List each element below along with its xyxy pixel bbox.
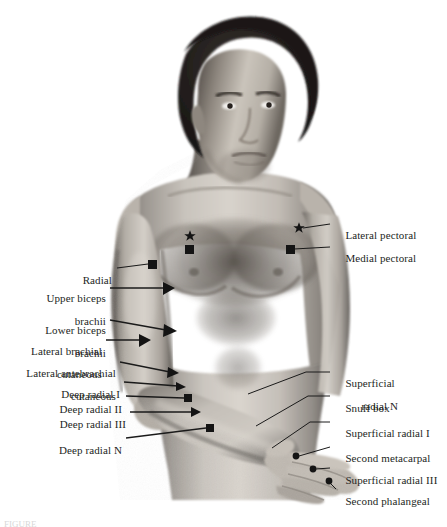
label-deep-radial-n-line1: Deep radial N bbox=[59, 444, 122, 456]
figure-caption: FIGURE bbox=[4, 519, 304, 527]
label-medial-pectoral: Medial pectoral bbox=[334, 241, 444, 276]
anatomy-figure: Radial Upper biceps brachii Lower biceps… bbox=[0, 0, 447, 527]
label-second-phalangeal: Second phalangeal bbox=[334, 484, 446, 519]
label-lateral-pectoral-line1: Lateral pectoral bbox=[345, 229, 416, 241]
label-lateral-brachial-cutaneous-line1: Lateral brachial bbox=[31, 345, 102, 357]
label-deep-radial-3-line1: Deep radial III bbox=[60, 418, 126, 430]
label-superficial-radial-n-line1: Superficial bbox=[345, 377, 394, 389]
label-upper-biceps-brachii-line1: Upper biceps bbox=[46, 292, 106, 304]
label-medial-pectoral-line1: Medial pectoral bbox=[345, 252, 416, 264]
label-snuff-box-line1: Snuff box bbox=[345, 402, 389, 414]
label-second-phalangeal-line1: Second phalangeal bbox=[345, 495, 429, 507]
label-superficial-radial-1-line1: Superficial radial I bbox=[345, 427, 429, 439]
label-second-metacarpal-line1: Second metacarpal bbox=[345, 452, 430, 464]
label-deep-radial-n: Deep radial N bbox=[16, 433, 122, 468]
